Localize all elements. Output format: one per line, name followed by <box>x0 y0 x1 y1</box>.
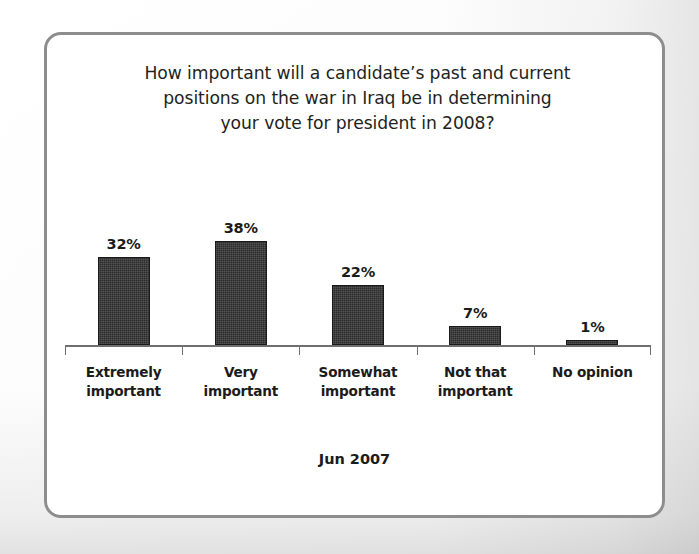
category-label-not-that-important: Not that important <box>417 363 534 401</box>
category-label-no-opinion: No opinion <box>534 363 651 382</box>
bar-value-label: 1% <box>580 319 604 335</box>
category-label-line-2: important <box>417 382 534 401</box>
bar-extremely-important <box>98 257 150 345</box>
category-label-line-2: important <box>65 382 182 401</box>
bar-value-label: 38% <box>224 220 258 236</box>
bar-value-label: 32% <box>107 236 141 252</box>
plot-area: 32% 38% 22% 7% <box>65 185 651 345</box>
bar-column: 38% <box>215 185 267 345</box>
bar-very-important <box>215 241 267 345</box>
bar-somewhat-important <box>332 285 384 345</box>
axis-tick-3 <box>417 345 418 355</box>
axis-tick-4 <box>534 345 535 355</box>
category-label-extremely-important: Extremely important <box>65 363 182 401</box>
bar-value-label: 7% <box>463 305 487 321</box>
bar-column: 7% <box>449 185 501 345</box>
axis-tick-end <box>650 345 651 355</box>
category-label-line-2: important <box>299 382 416 401</box>
category-label-line-1: Not that <box>417 363 534 382</box>
bar-value-label: 22% <box>341 264 375 280</box>
bar-slot-no-opinion: 1% <box>534 185 651 345</box>
category-label-line-1: Somewhat <box>299 363 416 382</box>
x-axis <box>65 345 651 357</box>
chart-title-line-1: How important will a candidate’s past an… <box>75 61 640 86</box>
bar-column: 32% <box>98 185 150 345</box>
bar-slot-not-that-important: 7% <box>417 185 534 345</box>
category-labels: Extremely important Very important Somew… <box>65 363 651 411</box>
category-label-line-2: important <box>182 382 299 401</box>
chart-page: How important will a candidate’s past an… <box>0 0 699 554</box>
category-label-line-1: Very <box>182 363 299 382</box>
bar-slot-very-important: 38% <box>182 185 299 345</box>
axis-tick-start <box>65 345 66 355</box>
chart-title-line-2: positions on the war in Iraq be in deter… <box>75 86 640 111</box>
category-label-line-1: No opinion <box>534 363 651 382</box>
chart-title-line-3: your vote for president in 2008? <box>75 111 640 136</box>
bar-not-that-important <box>449 326 501 345</box>
category-label-somewhat-important: Somewhat important <box>299 363 416 401</box>
x-axis-line <box>65 345 651 347</box>
bar-slot-extremely-important: 32% <box>65 185 182 345</box>
category-label-line-1: Extremely <box>65 363 182 382</box>
bar-column: 1% <box>566 185 618 345</box>
category-label-very-important: Very important <box>182 363 299 401</box>
bar-slot-somewhat-important: 22% <box>299 185 416 345</box>
survey-date-label: Jun 2007 <box>47 451 662 467</box>
bar-column: 22% <box>332 185 384 345</box>
chart-frame: How important will a candidate’s past an… <box>44 32 665 518</box>
axis-tick-1 <box>182 345 183 355</box>
axis-tick-2 <box>299 345 300 355</box>
chart-title: How important will a candidate’s past an… <box>75 61 640 136</box>
